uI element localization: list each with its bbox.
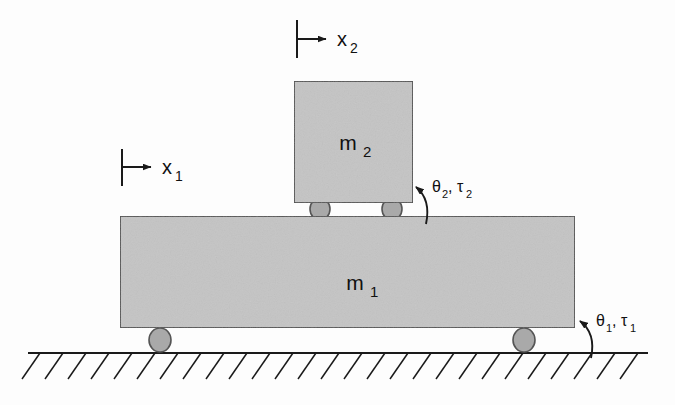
mass-block-m2: m 2 [294,81,413,203]
x1-label: x [162,156,172,178]
theta1-comma: , [612,312,616,329]
mass-spring-cart-diagram: m 1 m 2 x 2 x 1 θ 2 , τ [0,0,675,405]
m1-wheels [149,328,535,352]
m1-wheel-left [149,328,171,352]
x2-label: x [337,28,347,50]
x1-label-subscript: 1 [175,168,183,184]
theta2-symbol: θ [432,178,441,195]
ground [22,353,648,379]
tau1-symbol: τ [621,312,628,329]
x2-label-subscript: 2 [350,40,358,56]
figure-canvas: m 1 m 2 x 2 x 1 θ 2 , τ [0,0,675,405]
m1-wheel-right [513,328,535,352]
ground-hatching [22,353,638,379]
tau2-symbol: τ [457,178,464,195]
coordinate-arrow-x2: x 2 [297,20,358,58]
theta2-comma: , [448,178,452,195]
m2-label-subscript: 2 [363,143,371,160]
m2-label: m [339,131,357,154]
coordinate-arrow-x1: x 1 [122,149,183,186]
tau2-subscript: 2 [466,188,472,200]
mass-block-m1: m 1 [120,216,575,328]
theta1-symbol: θ [596,312,605,329]
torque-annotation-theta1: θ 1 , τ 1 [580,312,636,358]
tau1-subscript: 1 [630,322,636,334]
m1-label: m [346,271,364,294]
m1-label-subscript: 1 [370,283,378,300]
